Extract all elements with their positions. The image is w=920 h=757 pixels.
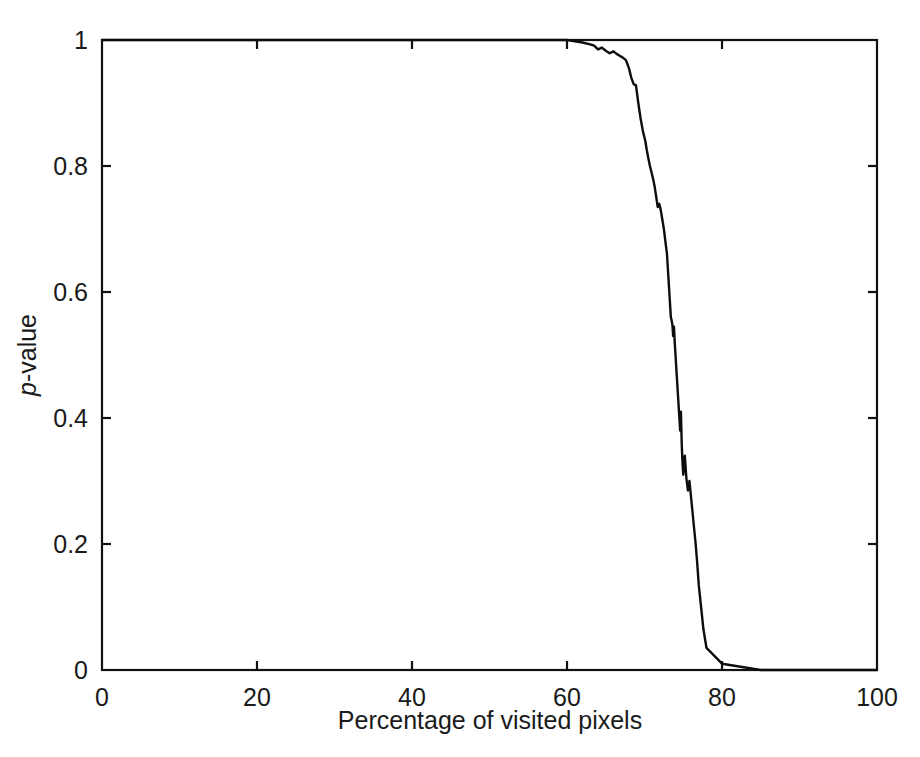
figure-container: 020406080100 00.20.40.60.81 Percentage o… — [0, 0, 920, 757]
y-axis-title-italic-p: p — [13, 382, 41, 397]
chart-background — [0, 0, 920, 757]
x-axis-title: Percentage of visited pixels — [338, 706, 642, 734]
y-tick-label: 0.2 — [53, 530, 88, 558]
y-axis-title-text: p-value — [13, 314, 41, 397]
y-tick-label: 0.8 — [53, 152, 88, 180]
y-axis-title-suffix: -value — [13, 314, 41, 382]
x-tick-label: 0 — [95, 683, 109, 711]
p-value-line-chart: 020406080100 00.20.40.60.81 Percentage o… — [0, 0, 920, 757]
y-tick-label: 1 — [74, 26, 88, 54]
y-axis-title: p-value — [13, 314, 41, 397]
y-tick-label: 0.6 — [53, 278, 88, 306]
x-tick-label: 20 — [243, 683, 271, 711]
x-tick-label: 100 — [856, 683, 898, 711]
y-tick-label: 0 — [74, 656, 88, 684]
x-tick-label: 80 — [708, 683, 736, 711]
y-tick-label: 0.4 — [53, 404, 88, 432]
